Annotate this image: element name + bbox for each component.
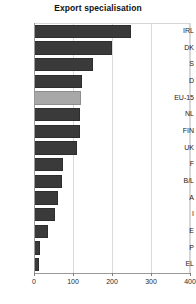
bar-e bbox=[34, 225, 48, 238]
category-label-p: P bbox=[165, 244, 196, 251]
category-label-dk: DK bbox=[165, 44, 196, 51]
category-label-e: E bbox=[165, 227, 196, 234]
category-label-irl: IRL bbox=[165, 27, 196, 34]
x-tick-label-100: 100 bbox=[60, 278, 86, 285]
bar-uk bbox=[34, 141, 77, 154]
category-label-d: D bbox=[165, 77, 196, 84]
bar-b-l bbox=[34, 175, 62, 188]
x-tick-label-0: 0 bbox=[21, 278, 47, 285]
bar-fin bbox=[34, 125, 80, 138]
category-label-nl: NL bbox=[165, 110, 196, 117]
bar-d bbox=[34, 75, 82, 88]
x-tick-label-200: 200 bbox=[99, 278, 125, 285]
export-specialisation-chart: Export specialisation 0100200300400 IRLD… bbox=[0, 0, 196, 304]
category-label-s: S bbox=[165, 60, 196, 67]
bar-f bbox=[34, 158, 63, 171]
category-label-eu-15: EU-15 bbox=[165, 94, 196, 101]
category-label-f: F bbox=[165, 160, 196, 167]
category-label-i: I bbox=[165, 210, 196, 217]
bar-nl bbox=[34, 108, 80, 121]
bar-s bbox=[34, 58, 93, 71]
bar-a bbox=[34, 191, 58, 204]
x-tick-label-400: 400 bbox=[177, 278, 196, 285]
x-tick-mark-300 bbox=[151, 273, 152, 276]
category-label-fin: FIN bbox=[165, 127, 196, 134]
bar-irl bbox=[34, 25, 131, 38]
category-label-b-l: B/L bbox=[165, 177, 196, 184]
category-label-uk: UK bbox=[165, 144, 196, 151]
x-tick-mark-0 bbox=[34, 273, 35, 276]
chart-title: Export specialisation bbox=[0, 3, 196, 13]
x-tick-label-300: 300 bbox=[138, 278, 164, 285]
category-label-el: EL bbox=[165, 260, 196, 267]
bar-eu-15 bbox=[34, 91, 81, 104]
bar-i bbox=[34, 208, 55, 221]
y-axis-line bbox=[34, 23, 35, 274]
x-tick-mark-400 bbox=[190, 273, 191, 276]
x-tick-mark-200 bbox=[112, 273, 113, 276]
x-tick-mark-100 bbox=[73, 273, 74, 276]
bar-dk bbox=[34, 41, 112, 54]
category-label-a: A bbox=[165, 194, 196, 201]
